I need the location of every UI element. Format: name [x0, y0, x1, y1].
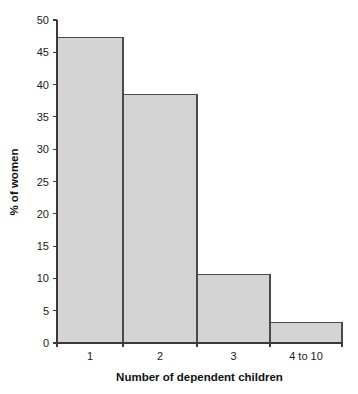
y-tick-label-50: 50: [37, 14, 49, 26]
x-tick-label-4-to-10: 4 to 10: [289, 350, 323, 362]
x-axis: 1234 to 10: [57, 343, 342, 362]
x-tick-label-2: 2: [157, 350, 163, 362]
bar-chart-figure: 05101520253035404550 1234 to 10 Number o…: [0, 0, 358, 394]
y-tick-label-45: 45: [37, 46, 49, 58]
x-tick-label-3: 3: [230, 350, 236, 362]
y-axis-title: % of women: [8, 148, 20, 215]
bars-group: [57, 37, 342, 343]
y-tick-labels: 05101520253035404550: [37, 14, 49, 349]
y-tick-label-10: 10: [37, 272, 49, 284]
chart-canvas: 05101520253035404550 1234 to 10 Number o…: [0, 0, 358, 394]
y-tick-label-15: 15: [37, 240, 49, 252]
bar-category-2: [123, 94, 197, 343]
y-tick-label-40: 40: [37, 79, 49, 91]
bar-category-3: [197, 275, 270, 343]
y-axis: 05101520253035404550: [37, 14, 57, 349]
y-tick-label-5: 5: [43, 305, 49, 317]
y-tick-label-35: 35: [37, 111, 49, 123]
y-tick-label-0: 0: [43, 337, 49, 349]
x-axis-title: Number of dependent children: [116, 371, 283, 383]
y-tick-label-30: 30: [37, 143, 49, 155]
y-tick-label-25: 25: [37, 176, 49, 188]
x-tick-marks: [57, 343, 342, 347]
x-tick-labels: 1234 to 10: [87, 350, 323, 362]
bar-category-4-to-10: [270, 322, 342, 343]
bar-category-1: [57, 37, 123, 343]
x-tick-label-1: 1: [87, 350, 93, 362]
y-tick-marks: [53, 20, 57, 343]
y-tick-label-20: 20: [37, 208, 49, 220]
